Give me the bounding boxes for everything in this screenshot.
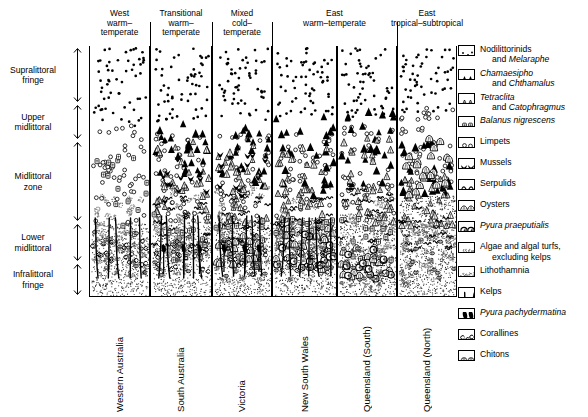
legend-item-0: Nodilittorinidsand Melaraphe bbox=[458, 44, 586, 65]
zone-label-line: Supralittoral bbox=[2, 65, 64, 75]
balanus-icon-glyph bbox=[459, 120, 475, 127]
oysters-icon bbox=[458, 200, 475, 211]
limpets-icon-glyph bbox=[459, 141, 475, 148]
legend-item-4: Limpets bbox=[458, 136, 586, 154]
column-header-3: Eastwarm–temperate bbox=[272, 8, 397, 44]
legend-label-8: Pyura praeputialis bbox=[480, 220, 586, 230]
legend-label-6: Serpulids bbox=[480, 178, 586, 188]
zone-label-line: fringe bbox=[2, 75, 64, 85]
zonation-panel-1 bbox=[150, 46, 212, 297]
header-line: warm–temperate bbox=[303, 19, 366, 29]
legend-label-line: Serpulids bbox=[480, 178, 516, 188]
zonation-panel-0 bbox=[89, 46, 150, 297]
legend-conjunction: and bbox=[492, 78, 509, 88]
zonation-panel-2 bbox=[212, 46, 272, 297]
region-label-4: Queensland (South) bbox=[361, 302, 372, 412]
legend-label-line: Corallines bbox=[480, 328, 518, 338]
legend-label-line: Balanus nigrescens bbox=[480, 115, 555, 125]
zone-label-4: Infralittoralfringe bbox=[2, 269, 64, 289]
zone-label-line: zone bbox=[2, 182, 64, 192]
lithothamnia-icon bbox=[458, 266, 475, 277]
serpulids-icon bbox=[458, 179, 475, 190]
zone-label-line: Midlittoral bbox=[2, 171, 64, 181]
header-line: temperate bbox=[162, 28, 200, 38]
legend-label-continuation: and Chthamalus bbox=[480, 78, 586, 88]
header-line: temperate bbox=[101, 28, 139, 38]
pyura-praeputialis-icon bbox=[458, 221, 475, 232]
balanus-icon bbox=[458, 116, 475, 127]
legend-label-14: Chitons bbox=[480, 349, 586, 359]
legend-label-12: Pyura pachydermatina bbox=[480, 307, 586, 317]
oysters-icon-glyph bbox=[459, 204, 475, 211]
nodilittorinids-icon-glyph bbox=[459, 49, 475, 56]
legend-label-3: Balanus nigrescens bbox=[480, 115, 586, 125]
header-line: tropical–subtropical bbox=[391, 19, 463, 29]
legend-label-continuation: excluding kelps bbox=[480, 252, 586, 262]
lithothamnia-icon-glyph bbox=[459, 270, 475, 277]
panel-frame-bottom bbox=[89, 296, 457, 297]
legend-item-11: Kelps bbox=[458, 286, 586, 304]
zonation-panels bbox=[89, 46, 457, 297]
zonation-panel-3 bbox=[272, 46, 337, 297]
column-header-2: Mixedcold–temperate bbox=[212, 8, 272, 44]
pyura-pachydermatina-icon bbox=[458, 308, 475, 319]
legend-item-6: Serpulids bbox=[458, 178, 586, 196]
legend-label-taxon: Catophragmus bbox=[509, 102, 565, 112]
kelps-icon-glyph bbox=[459, 291, 475, 298]
serpulids-icon-glyph bbox=[459, 183, 475, 190]
panel-organisms-1 bbox=[151, 46, 212, 297]
column-header-4: Easttropical–subtropical bbox=[397, 8, 457, 44]
legend-item-9: Algae and algal turfs,excluding kelps bbox=[458, 241, 586, 262]
zone-extent-arrow-4 bbox=[72, 263, 83, 296]
chitons-icon-glyph bbox=[459, 354, 475, 361]
header-line: temperate bbox=[223, 28, 261, 38]
kelps-icon bbox=[458, 287, 475, 298]
legend-item-1: Chamaesiphoand Chthamalus bbox=[458, 68, 586, 89]
legend-label-continuation: and Catophragmus bbox=[480, 102, 586, 112]
legend-label-line: Chitons bbox=[480, 349, 509, 359]
zone-label-line: Infralittoral bbox=[2, 269, 64, 279]
limpets-icon bbox=[458, 137, 475, 148]
zone-label-line: midlittoral bbox=[2, 243, 64, 253]
zone-label-line: Upper bbox=[2, 112, 64, 122]
legend-label-1: Chamaesiphoand Chthamalus bbox=[480, 68, 586, 89]
legend-label-continuation: and Melaraphe bbox=[480, 54, 586, 64]
legend-label-line: Chamaesipho bbox=[480, 68, 533, 78]
zone-extent-arrow-1 bbox=[72, 104, 83, 140]
zone-extent-arrow-0 bbox=[72, 47, 83, 103]
double-headed-arrow-icon bbox=[72, 223, 83, 262]
region-label-5: Queensland (North) bbox=[421, 302, 432, 412]
legend-label-line: Oysters bbox=[480, 199, 510, 209]
legend-item-10: Lithothamnia bbox=[458, 265, 586, 283]
legend-item-7: Oysters bbox=[458, 199, 586, 217]
legend-item-5: Mussels bbox=[458, 157, 586, 175]
legend-label-5: Mussels bbox=[480, 157, 586, 167]
zonation-panel-4 bbox=[337, 46, 397, 297]
zone-label-line: Lower bbox=[2, 232, 64, 242]
pyura-pachydermatina-icon-glyph bbox=[459, 312, 475, 319]
double-headed-arrow-icon bbox=[72, 47, 83, 103]
legend-label-line: Kelps bbox=[480, 286, 502, 296]
legend-label-line: Lithothamnia bbox=[480, 265, 529, 275]
nodilittorinids-icon bbox=[458, 45, 475, 56]
legend-label-line: Algae and algal turfs, bbox=[480, 241, 561, 251]
legend-label-line: Mussels bbox=[480, 157, 512, 167]
legend-label-13: Corallines bbox=[480, 328, 586, 338]
mussels-icon-glyph bbox=[459, 162, 475, 169]
legend-label-taxon: Chthamalus bbox=[509, 78, 555, 88]
legend-label-0: Nodilittorinidsand Melaraphe bbox=[480, 44, 586, 65]
column-header-1: Transitionalwarm–temperate bbox=[150, 8, 212, 44]
pyura-praeputialis-icon-glyph bbox=[459, 225, 475, 232]
zone-label-line: midlittoral bbox=[2, 122, 64, 132]
zone-label-2: Midlittoralzone bbox=[2, 171, 64, 191]
legend-conjunction: and bbox=[492, 102, 509, 112]
zone-label-line: fringe bbox=[2, 280, 64, 290]
legend-item-12: Pyura pachydermatina bbox=[458, 307, 586, 325]
panel-organisms-3 bbox=[273, 46, 337, 297]
chamaesipho-icon bbox=[458, 69, 475, 80]
column-header-0: Westwarm–temperate bbox=[89, 8, 150, 44]
legend-label-line: Limpets bbox=[480, 136, 510, 146]
panel-organisms-2 bbox=[213, 46, 272, 297]
tetraclita-icon-glyph bbox=[459, 97, 475, 104]
legend-item-3: Balanus nigrescens bbox=[458, 115, 586, 133]
